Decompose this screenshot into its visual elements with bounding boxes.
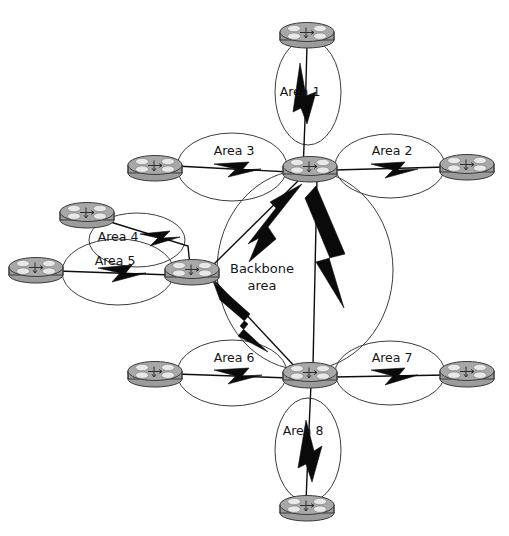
area-label-area-1: Area 1 — [280, 84, 321, 99]
area-label-area-8: Area 8 — [283, 423, 324, 438]
area-label-area-4: Area 4 — [98, 229, 139, 244]
network-topology-svg: Area 1 Area 2 Area 3 Area 4 Area 5 Area … — [0, 0, 509, 536]
router-top[interactable] — [280, 23, 334, 49]
router-area3-left[interactable] — [128, 156, 182, 182]
router-abr-north[interactable] — [283, 157, 337, 183]
area-label-area-2: Area 2 — [372, 143, 413, 158]
backbone-label-line2: area — [248, 278, 277, 293]
bolt-backbone-north-south — [305, 186, 345, 308]
area-label-area-5: Area 5 — [95, 253, 136, 268]
backbone-label-line1: Backbone — [230, 261, 294, 276]
router-area4-top[interactable] — [60, 203, 114, 229]
network-diagram-canvas: Area 1 Area 2 Area 3 Area 4 Area 5 Area … — [0, 0, 509, 536]
area-label-area-3: Area 3 — [214, 143, 255, 158]
bolt-area-5 — [98, 265, 146, 282]
router-area7-right[interactable] — [440, 362, 494, 388]
area-label-area-7: Area 7 — [372, 350, 413, 365]
router-area6-left[interactable] — [128, 362, 182, 388]
router-abr-south[interactable] — [283, 363, 337, 389]
router-area2-right[interactable] — [440, 155, 494, 181]
bolt-area-3 — [214, 162, 261, 177]
router-abr-west[interactable] — [165, 260, 219, 286]
area-label-area-6: Area 6 — [214, 350, 255, 365]
router-bottom[interactable] — [280, 496, 334, 522]
router-area5-left[interactable] — [9, 258, 63, 284]
bolt-area-2 — [371, 162, 418, 178]
